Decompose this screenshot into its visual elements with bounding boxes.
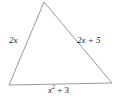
side-label-right: 2x + 5 [77, 35, 101, 45]
side-label-left: 2x [9, 35, 18, 45]
side-label-right-text: 2x + 5 [77, 35, 101, 45]
side-label-bottom-operator: + [55, 85, 65, 95]
side-label-bottom-constant: 3 [65, 85, 70, 95]
side-label-left-text: 2x [9, 35, 18, 45]
triangle-figure: 2x 2x + 5 x2 + 3 [0, 0, 117, 98]
triangle-outline [0, 0, 117, 98]
side-label-bottom: x2 + 3 [48, 85, 69, 95]
